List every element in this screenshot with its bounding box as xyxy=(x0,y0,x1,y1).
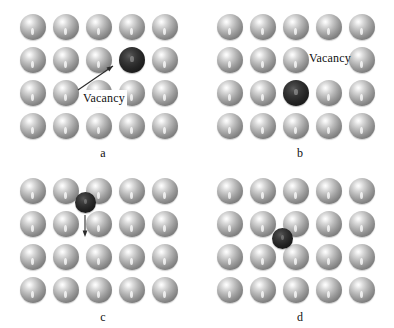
lattice-atom xyxy=(20,178,46,204)
lattice-atom xyxy=(53,14,79,40)
panel-b-vacancy-label: Vacancy xyxy=(309,51,351,66)
lattice-atom xyxy=(316,113,342,139)
panel-d-caption: d xyxy=(290,310,310,325)
lattice-atom xyxy=(119,113,145,139)
lattice-atom xyxy=(316,277,342,303)
lattice-atom xyxy=(217,244,243,270)
lattice-atom xyxy=(119,277,145,303)
lattice-atom xyxy=(119,244,145,270)
defect-atom xyxy=(119,47,145,73)
lattice-atom xyxy=(20,14,46,40)
lattice-atom xyxy=(53,211,79,237)
lattice-atom xyxy=(119,211,145,237)
lattice-atom xyxy=(20,211,46,237)
lattice-atom xyxy=(86,211,112,237)
lattice-atom xyxy=(349,211,375,237)
lattice-atom xyxy=(217,277,243,303)
lattice-atom xyxy=(349,80,375,106)
defect-atom xyxy=(283,80,309,106)
lattice-atom xyxy=(53,113,79,139)
interstitial-atom xyxy=(272,228,293,249)
panel-a-caption: a xyxy=(93,146,113,161)
panel-b-caption: b xyxy=(290,146,310,161)
lattice-atom xyxy=(217,211,243,237)
panel-b-lattice xyxy=(197,0,394,164)
lattice-atom xyxy=(217,178,243,204)
lattice-atom xyxy=(53,244,79,270)
lattice-atom xyxy=(316,80,342,106)
lattice-atom xyxy=(152,178,178,204)
lattice-atom xyxy=(53,47,79,73)
lattice-atom xyxy=(349,178,375,204)
lattice-atom xyxy=(152,211,178,237)
panel-a: Vacancy a xyxy=(0,0,197,164)
lattice-atom xyxy=(20,113,46,139)
defect-figure: Vacancy a Vacancy b c d xyxy=(0,0,394,328)
lattice-atom xyxy=(86,14,112,40)
lattice-atom xyxy=(349,244,375,270)
lattice-atom xyxy=(250,113,276,139)
lattice-atom xyxy=(152,113,178,139)
lattice-atom xyxy=(349,277,375,303)
lattice-atom xyxy=(250,80,276,106)
lattice-atom xyxy=(316,211,342,237)
panel-c: c xyxy=(0,164,197,328)
lattice-atom xyxy=(217,47,243,73)
lattice-atom xyxy=(283,47,309,73)
lattice-atom xyxy=(152,244,178,270)
lattice-atom xyxy=(86,277,112,303)
lattice-atom xyxy=(20,244,46,270)
lattice-atom xyxy=(86,47,112,73)
lattice-atom xyxy=(217,80,243,106)
panel-b: Vacancy b xyxy=(197,0,394,164)
lattice-atom xyxy=(152,14,178,40)
lattice-atom xyxy=(152,47,178,73)
panel-d: d xyxy=(197,164,394,328)
lattice-atom xyxy=(283,277,309,303)
lattice-atom xyxy=(152,80,178,106)
panel-d-lattice xyxy=(197,164,394,328)
lattice-atom xyxy=(20,47,46,73)
lattice-atom xyxy=(250,244,276,270)
lattice-atom xyxy=(53,80,79,106)
lattice-atom xyxy=(250,178,276,204)
lattice-atom xyxy=(349,113,375,139)
interstitial-atom xyxy=(75,192,96,213)
lattice-atom xyxy=(283,14,309,40)
lattice-atom xyxy=(349,14,375,40)
lattice-atom xyxy=(349,47,375,73)
lattice-atom xyxy=(119,178,145,204)
panel-a-lattice xyxy=(0,0,197,164)
lattice-atom xyxy=(283,178,309,204)
lattice-atom xyxy=(283,113,309,139)
lattice-atom xyxy=(20,277,46,303)
lattice-atom xyxy=(250,277,276,303)
lattice-atom xyxy=(316,14,342,40)
lattice-atom xyxy=(250,14,276,40)
lattice-atom xyxy=(316,178,342,204)
lattice-atom xyxy=(250,47,276,73)
panel-c-caption: c xyxy=(93,310,113,325)
lattice-atom xyxy=(86,113,112,139)
lattice-atom xyxy=(217,14,243,40)
panel-a-vacancy-label: Vacancy xyxy=(81,90,127,107)
panel-c-lattice xyxy=(0,164,197,328)
lattice-atom xyxy=(316,244,342,270)
lattice-atom xyxy=(86,244,112,270)
lattice-atom xyxy=(119,14,145,40)
lattice-atom xyxy=(152,277,178,303)
lattice-atom xyxy=(217,113,243,139)
lattice-atom xyxy=(20,80,46,106)
lattice-atom xyxy=(53,277,79,303)
